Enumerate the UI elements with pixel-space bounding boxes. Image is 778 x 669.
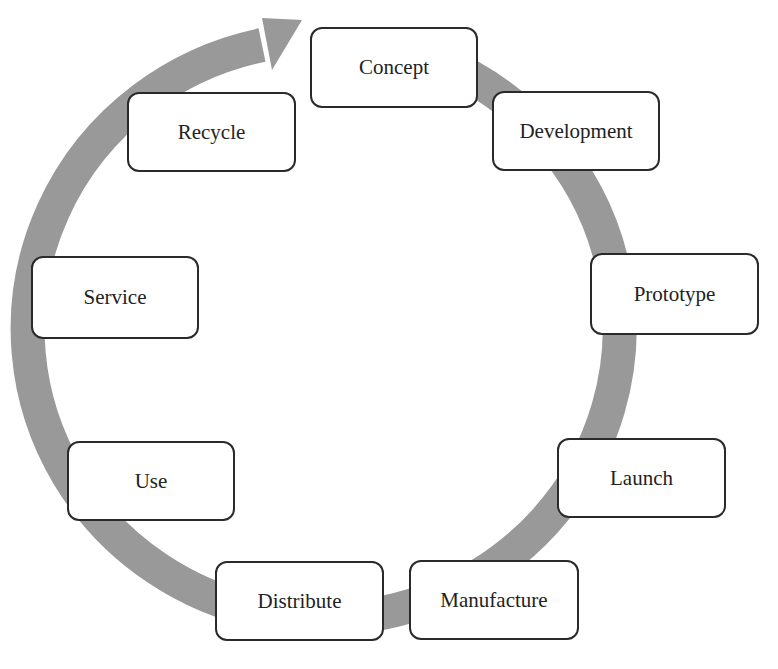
node-concept: Concept bbox=[310, 27, 478, 108]
node-development: Development bbox=[492, 91, 660, 171]
cycle-arrowhead-icon bbox=[262, 18, 302, 70]
node-distribute: Distribute bbox=[215, 561, 384, 641]
node-label: Concept bbox=[359, 55, 429, 80]
node-label: Recycle bbox=[178, 120, 246, 145]
node-launch: Launch bbox=[557, 438, 726, 518]
node-label: Use bbox=[135, 469, 168, 494]
node-recycle: Recycle bbox=[127, 92, 296, 172]
node-label: Service bbox=[84, 285, 147, 310]
node-prototype: Prototype bbox=[590, 253, 759, 335]
node-label: Manufacture bbox=[440, 588, 547, 613]
node-label: Launch bbox=[610, 466, 673, 491]
node-use: Use bbox=[67, 441, 235, 521]
node-manufacture: Manufacture bbox=[409, 560, 579, 640]
node-label: Development bbox=[519, 119, 632, 144]
node-service: Service bbox=[31, 256, 199, 339]
node-label: Prototype bbox=[634, 282, 716, 307]
node-label: Distribute bbox=[258, 589, 342, 614]
